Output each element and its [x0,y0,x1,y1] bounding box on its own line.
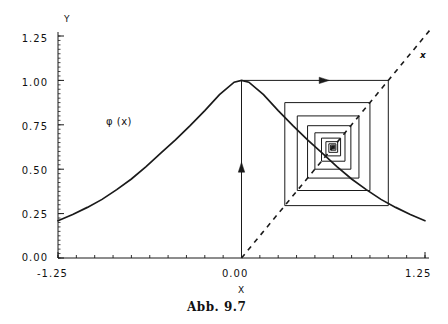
identity-diagonal-line [242,27,433,258]
x-tick-label-2: 1.25 [405,268,431,279]
axes-layer [58,32,429,258]
y-tick-label-5: 0.00 [2,252,48,263]
y-tick-label-4: 0.25 [2,209,48,220]
phi-curve-label: φ (x) [106,116,132,127]
x-axis-name: X [238,285,245,295]
y-tick-label-0: 1.25 [2,33,48,44]
x-tick-label-1: 0.00 [222,268,248,279]
y-tick-label-2: 0.75 [2,121,48,132]
y-tick-label-1: 1.00 [2,77,48,88]
diagonal-line-label: x [420,50,426,60]
figure-container: 1.25 1.00 0.75 0.50 0.25 0.00 -1.25 0.00… [0,0,448,324]
x-tick-label-0: -1.25 [37,268,68,279]
figure-caption: Abb. 9.7 [187,300,246,314]
y-axis-name: Y [64,14,71,24]
direction-arrows [238,77,329,172]
y-tick-label-3: 0.50 [2,165,48,176]
